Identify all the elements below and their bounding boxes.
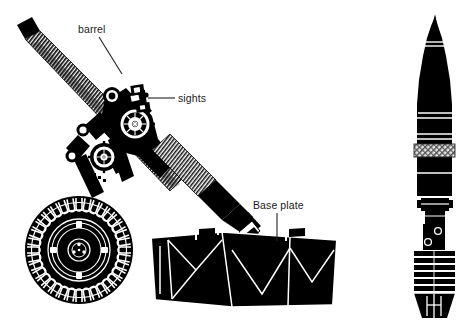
base-plate — [152, 225, 336, 307]
bomb-body-taper — [419, 174, 451, 196]
illustration-canvas: barrel sights Base plate — [0, 0, 470, 325]
label-barrel: barrel — [78, 23, 105, 35]
base-plate-right-wing — [222, 232, 336, 307]
tail-boom — [423, 224, 445, 250]
label-sights: sights — [178, 92, 206, 104]
sight-base-window — [140, 105, 146, 110]
road-wheel — [25, 196, 133, 304]
boom-collar — [425, 211, 445, 224]
mortar-illustration: barrel sights Base plate — [0, 0, 470, 325]
trunnion-pin — [109, 93, 116, 100]
sight-lens — [134, 87, 141, 93]
sight-knob — [143, 92, 148, 97]
bipod-joint-lower-bore — [69, 153, 76, 160]
driving-band — [414, 144, 455, 157]
bipod-joint-upper-bore — [79, 126, 86, 133]
label-base-plate: Base plate — [253, 199, 304, 211]
